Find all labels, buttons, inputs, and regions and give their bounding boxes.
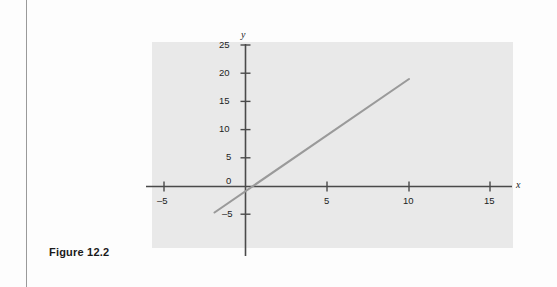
x-axis-label: x [516,180,520,190]
y-tick-label--5: –5 [222,209,233,219]
page-canvas: 25 20 15 10 5 0 –5 –5 5 10 15 x y Figure… [0,0,557,287]
x-tick-label-5: 5 [324,196,329,206]
y-tick-label-15: 15 [219,96,230,106]
y-tick-label-0: 0 [226,176,231,186]
figure-block: 25 20 15 10 5 0 –5 –5 5 10 15 x y Figure… [0,0,557,287]
x-tick-label-15: 15 [484,196,495,206]
y-tick-label-5: 5 [226,152,231,162]
figure-caption: Figure 12.2 [49,246,109,258]
data-series-line [215,79,410,213]
x-tick-label--5: –5 [157,196,168,206]
y-tick-label-10: 10 [219,124,230,134]
y-tick-label-20: 20 [219,68,230,78]
x-tick-label-10: 10 [403,196,414,206]
coordinate-plot [0,0,557,287]
y-tick-label-25: 25 [219,40,230,50]
y-axis-label: y [241,30,245,40]
